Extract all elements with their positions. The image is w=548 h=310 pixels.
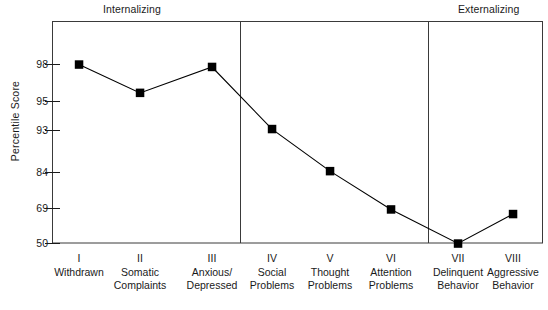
data-point-1 <box>75 60 84 69</box>
data-point-2 <box>136 89 145 98</box>
data-point-5 <box>326 167 335 176</box>
x-category-roman-2: II <box>102 252 178 266</box>
plot-frame <box>53 22 543 244</box>
x-category-name2-8: Behavior <box>475 279 548 293</box>
x-category-name2-6: Problems <box>353 279 429 293</box>
x-category-name-6: Attention <box>353 266 429 280</box>
data-point-7 <box>454 239 463 248</box>
percentile-score-line-chart: Internalizing Externalizing Percentile S… <box>0 0 548 310</box>
data-point-4 <box>268 125 277 134</box>
data-point-6 <box>387 205 396 214</box>
x-category-roman-8: VIII <box>475 252 548 266</box>
x-category-name-8: Aggressive <box>475 266 548 280</box>
x-category-2: II Somatic Complaints <box>102 252 178 293</box>
x-category-6: VI Attention Problems <box>353 252 429 293</box>
x-category-name2-2: Complaints <box>102 279 178 293</box>
data-point-3 <box>208 63 217 71</box>
x-category-8: VIII Aggressive Behavior <box>475 252 548 293</box>
x-category-name-2: Somatic <box>102 266 178 280</box>
series-markers <box>75 60 518 248</box>
data-point-8 <box>509 210 518 219</box>
x-category-roman-6: VI <box>353 252 429 266</box>
